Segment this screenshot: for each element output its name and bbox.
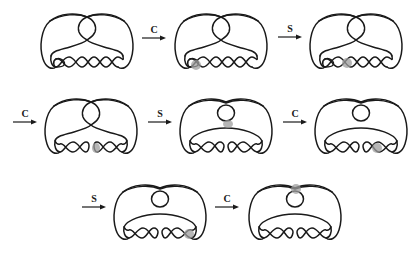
move-label-2: S [287, 23, 293, 34]
move-label-1: C [150, 24, 157, 35]
knot-move-sequence-figure: C S C S C S [0, 0, 418, 255]
highlight-marker [223, 120, 233, 128]
knot-diagram-8 [249, 184, 341, 239]
right-arrow-icon [278, 34, 302, 39]
highlight-marker [184, 229, 194, 239]
knot-diagram-5 [180, 99, 272, 153]
knot-diagram-2 [175, 14, 267, 70]
move-label-3: C [21, 108, 28, 119]
move-label-4: S [157, 108, 163, 119]
knot-diagram-3 [310, 14, 402, 68]
right-arrow-icon [283, 119, 307, 124]
highlight-marker [342, 58, 352, 68]
move-arrow-3: C [13, 108, 37, 125]
move-arrow-2: S [278, 23, 302, 40]
move-label-7: C [223, 193, 230, 204]
right-arrow-icon [142, 35, 166, 40]
right-arrow-icon [215, 204, 239, 209]
right-arrow-icon [82, 204, 106, 209]
knot-diagram-6 [315, 99, 407, 153]
highlight-marker [372, 143, 382, 153]
highlight-marker [191, 60, 201, 70]
knot-diagram-4 [45, 99, 137, 153]
right-arrow-icon [148, 119, 172, 124]
move-arrow-1: C [142, 24, 166, 41]
highlight-marker [291, 184, 301, 194]
move-arrow-4: S [148, 108, 172, 125]
right-arrow-icon [13, 119, 37, 124]
move-label-5: C [291, 108, 298, 119]
highlight-marker [92, 143, 100, 153]
knot-diagram-1 [41, 14, 133, 68]
move-arrow-7: C [215, 193, 239, 210]
move-label-6: S [91, 193, 97, 204]
move-arrow-6: S [82, 193, 106, 210]
knot-diagram-7 [114, 185, 206, 239]
move-arrow-5: C [283, 108, 307, 125]
